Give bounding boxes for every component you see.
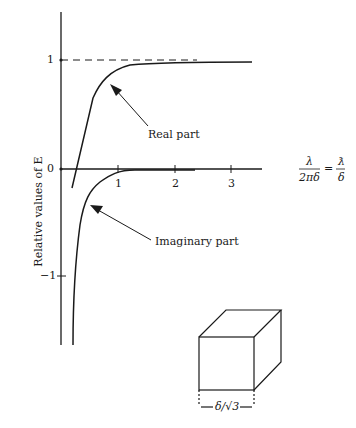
y-tick-0: 0 (47, 162, 54, 175)
y-axis-title: Relative values of E (32, 152, 45, 272)
frac-lhs-den: 2πδ (299, 171, 320, 184)
frac-eq: = (324, 162, 333, 175)
x-tick-2: 2 (172, 177, 179, 190)
imaginary-part-label: Imaginary part (155, 235, 239, 248)
frac-rhs-num: ƛ (338, 155, 345, 168)
frac-rhs-den: δ (338, 171, 345, 184)
cube-diagram (199, 310, 281, 407)
y-tick-1: 1 (47, 53, 54, 66)
imaginary-part-curve (73, 170, 195, 345)
x-tick-3: 3 (228, 177, 235, 190)
x-tick-1: 1 (115, 177, 122, 190)
frac-lhs-num: λ (306, 155, 313, 168)
cube-dimension-label: δ/√3 (215, 400, 239, 413)
real-part-label: Real part (148, 128, 200, 141)
